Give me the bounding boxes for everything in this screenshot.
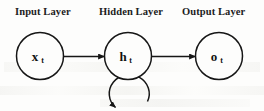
node-input[interactable]: x t <box>17 33 64 80</box>
node-input-circle <box>17 33 64 80</box>
node-hidden[interactable]: h t <box>105 33 152 80</box>
diagram-canvas: x t h t o t <box>0 0 264 111</box>
node-hidden-circle <box>105 33 152 80</box>
node-hidden-symbol: h <box>119 49 127 64</box>
node-output-circle <box>196 33 243 80</box>
node-output[interactable]: o t <box>196 33 243 80</box>
node-output-subscript: t <box>220 56 223 65</box>
node-hidden-subscript: t <box>129 56 132 65</box>
node-output-symbol: o <box>211 49 218 64</box>
node-input-symbol: x <box>32 49 39 64</box>
node-input-subscript: t <box>41 56 44 65</box>
rnn-diagram-figure: Input Layer Hidden Layer Output Layer x … <box>0 0 264 111</box>
